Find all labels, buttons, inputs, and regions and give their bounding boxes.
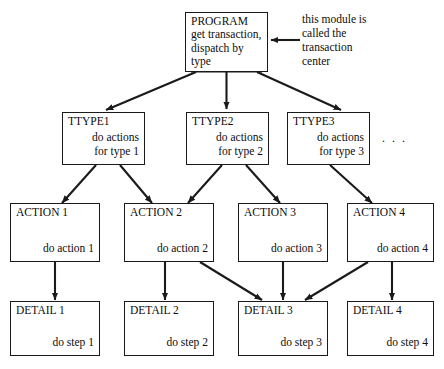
node-detail4-body: do step 4	[348, 336, 428, 350]
node-action1-body: do action 1	[11, 242, 94, 256]
node-ttype3-body: do actions for type 3	[288, 131, 364, 158]
node-program-title: PROGRAM	[191, 15, 248, 28]
node-detail3-body: do step 3	[239, 336, 322, 350]
node-action4[interactable]: ACTION 4 do action 4	[347, 203, 434, 262]
ellipsis-more-types: . . .	[382, 131, 407, 146]
node-action2-title: ACTION 2	[130, 206, 182, 219]
annotation-note: this module is called the transaction ce…	[302, 12, 367, 68]
node-action3-title: ACTION 3	[244, 206, 296, 219]
edge-program-ttype3	[257, 72, 341, 110]
node-ttype2-body: do actions for type 2	[187, 131, 263, 158]
edge-action2-detail3	[200, 262, 262, 300]
node-detail4[interactable]: DETAIL 4 do step 4	[347, 301, 434, 356]
structure-chart-diagram: PROGRAM get transaction, dispatch by typ…	[0, 0, 444, 369]
node-action2[interactable]: ACTION 2 do action 2	[124, 203, 214, 262]
edge-ttype2-action2	[188, 165, 222, 203]
node-action1[interactable]: ACTION 1 do action 1	[10, 203, 100, 262]
edge-action4-detail3	[305, 262, 368, 300]
node-ttype1-body: do actions for type 1	[63, 131, 139, 158]
node-ttype3[interactable]: TTYPE3 do actions for type 3	[287, 112, 370, 165]
node-action2-body: do action 2	[125, 242, 208, 256]
node-detail3-title: DETAIL 3	[244, 304, 293, 317]
edge-ttype3-action4	[330, 165, 372, 203]
node-detail2-title: DETAIL 2	[130, 304, 179, 317]
node-action3-body: do action 3	[239, 242, 322, 256]
node-detail1-body: do step 1	[11, 336, 94, 350]
node-detail2-body: do step 2	[125, 336, 208, 350]
node-action1-title: ACTION 1	[16, 206, 68, 219]
edge-ttype1-action1	[62, 165, 96, 203]
node-action3[interactable]: ACTION 3 do action 3	[238, 203, 328, 262]
node-detail2[interactable]: DETAIL 2 do step 2	[124, 301, 214, 356]
node-ttype2-title: TTYPE2	[192, 115, 234, 128]
node-ttype2[interactable]: TTYPE2 do actions for type 2	[186, 112, 269, 165]
node-ttype3-title: TTYPE3	[293, 115, 335, 128]
node-action4-body: do action 4	[348, 242, 428, 256]
edge-ttype2-action3	[246, 165, 280, 203]
node-detail4-title: DETAIL 4	[353, 304, 402, 317]
edge-program-ttype1	[106, 72, 196, 110]
node-ttype1[interactable]: TTYPE1 do actions for type 1	[62, 112, 145, 165]
node-program-body: get transaction, dispatch by type	[191, 28, 262, 69]
node-detail3[interactable]: DETAIL 3 do step 3	[238, 301, 328, 356]
node-detail1[interactable]: DETAIL 1 do step 1	[10, 301, 100, 356]
node-detail1-title: DETAIL 1	[16, 304, 65, 317]
node-action4-title: ACTION 4	[353, 206, 405, 219]
node-program[interactable]: PROGRAM get transaction, dispatch by typ…	[185, 12, 268, 72]
node-ttype1-title: TTYPE1	[68, 115, 110, 128]
edge-ttype1-action2	[120, 165, 152, 203]
